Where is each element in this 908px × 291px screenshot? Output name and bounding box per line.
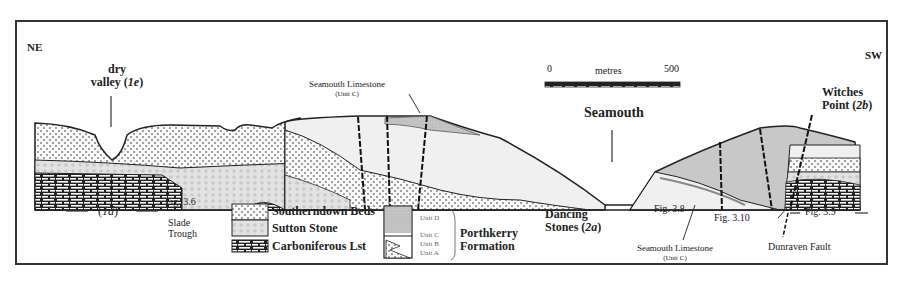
- porthkerry-brace: [451, 210, 455, 260]
- seamouth-label: Seamouth: [584, 106, 644, 121]
- dry-valley-label: dry valley (1e): [82, 63, 152, 88]
- legend-carboniferous: Carboniferous Lst: [272, 239, 366, 254]
- central-block: [285, 116, 605, 210]
- legend-swatch-sutton: [232, 220, 268, 236]
- fig-3-10-ref: Fig. 3.10: [714, 213, 750, 224]
- legend-swatch-porthkerry: [384, 206, 412, 258]
- legend-unit-b: Unit B: [420, 240, 439, 248]
- legend-swatch-southerndown: [232, 204, 268, 220]
- fig-3-6-ref: Fig. 3.6: [165, 197, 196, 208]
- porthkerry-formation-label: Porthkerry Formation: [460, 227, 518, 252]
- witches-point-label: Witches Point (2b): [822, 86, 872, 111]
- dunraven-fault-label: Dunraven Fault: [768, 242, 831, 253]
- fig-3-8-ref: Fig. 3.8: [654, 204, 685, 215]
- legend-unit-d: Unit D: [420, 214, 439, 222]
- legend-southerndown: Southerndown Beds: [272, 204, 375, 219]
- dunraven-fault-line: [783, 213, 788, 237]
- sw-block: [630, 115, 860, 210]
- scale-start: 0: [547, 64, 552, 75]
- orientation-sw: SW: [865, 50, 882, 62]
- legend-unit-c: Unit C: [420, 231, 439, 239]
- seamouth-limestone-bottom-label: Seamouth Limestone (Unit C): [620, 244, 730, 263]
- legend-sutton: Sutton Stone: [272, 221, 338, 236]
- seamouth-lst-pointer: [409, 94, 420, 113]
- orientation-ne: NE: [27, 42, 42, 54]
- slade-trough-label: Slade Trough: [168, 218, 197, 239]
- ref-1d-label: (1d): [98, 205, 118, 218]
- seamouth-limestone-top-label: Seamouth Limestone (Unit C): [292, 80, 402, 99]
- dancing-stones-label: Dancing Stones (2a): [545, 208, 601, 233]
- legend-unit-a: Unit A: [420, 249, 439, 257]
- legend-swatch-carboniferous: [232, 240, 268, 252]
- fig-3-9-ref: Fig. 3.9: [805, 207, 836, 218]
- scale-bar: [545, 82, 680, 87]
- scale-unit: metres: [595, 66, 622, 77]
- scale-end: 500: [664, 64, 679, 75]
